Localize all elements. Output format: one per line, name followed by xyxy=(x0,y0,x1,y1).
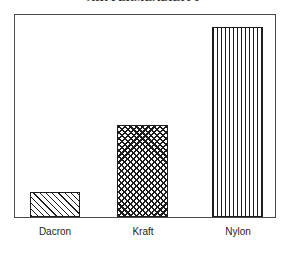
bar-kraft xyxy=(117,125,168,217)
bar-chart-figure: AIR PERMEABILITY Dacron Kraft Nylon xyxy=(0,0,288,253)
chart-title: AIR PERMEABILITY xyxy=(0,0,288,3)
x-axis-label-dacron: Dacron xyxy=(15,226,95,237)
bar-dacron xyxy=(30,192,80,217)
x-axis-label-kraft: Kraft xyxy=(103,226,183,237)
x-axis-label-nylon: Nylon xyxy=(198,226,278,237)
bar-nylon xyxy=(212,27,263,217)
plot-area xyxy=(14,14,276,218)
